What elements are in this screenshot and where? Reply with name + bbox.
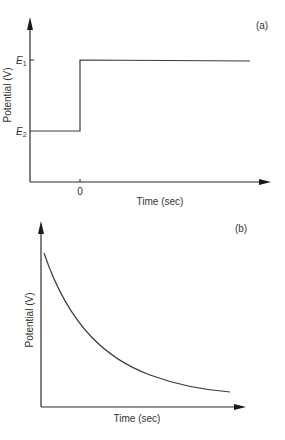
chart-a-panel-tag: (a) <box>256 20 268 31</box>
figure: E1 E2 0 Time (sec) Potential (V) (a) Tim… <box>0 0 285 440</box>
chart-a-label-e2: E2 <box>16 126 27 138</box>
chart-a-x-axis-arrow-icon <box>259 179 271 185</box>
chart-b-panel-tag: (b) <box>235 223 247 234</box>
chart-a: E1 E2 0 Time (sec) Potential (V) (a) <box>2 17 271 207</box>
chart-a-y-axis-title: Potential (V) <box>2 67 13 122</box>
chart-a-label-e1: E1 <box>16 55 27 67</box>
chart-a-x-axis-title: Time (sec) <box>137 196 184 207</box>
chart-b-x-axis-arrow-icon <box>234 404 246 410</box>
chart-a-y-axis-arrow-icon <box>27 17 33 30</box>
chart-b-y-axis-title: Potential (V) <box>24 292 35 347</box>
chart-b-decay-curve <box>44 253 230 392</box>
chart-a-tick-label-zero: 0 <box>77 186 83 197</box>
chart-b-y-axis-arrow-icon <box>38 221 44 234</box>
chart-b-x-axis-title: Time (sec) <box>114 413 161 424</box>
chart-b: Time (sec) Potential (V) (b) <box>24 221 247 424</box>
chart-a-step-line <box>30 60 250 131</box>
